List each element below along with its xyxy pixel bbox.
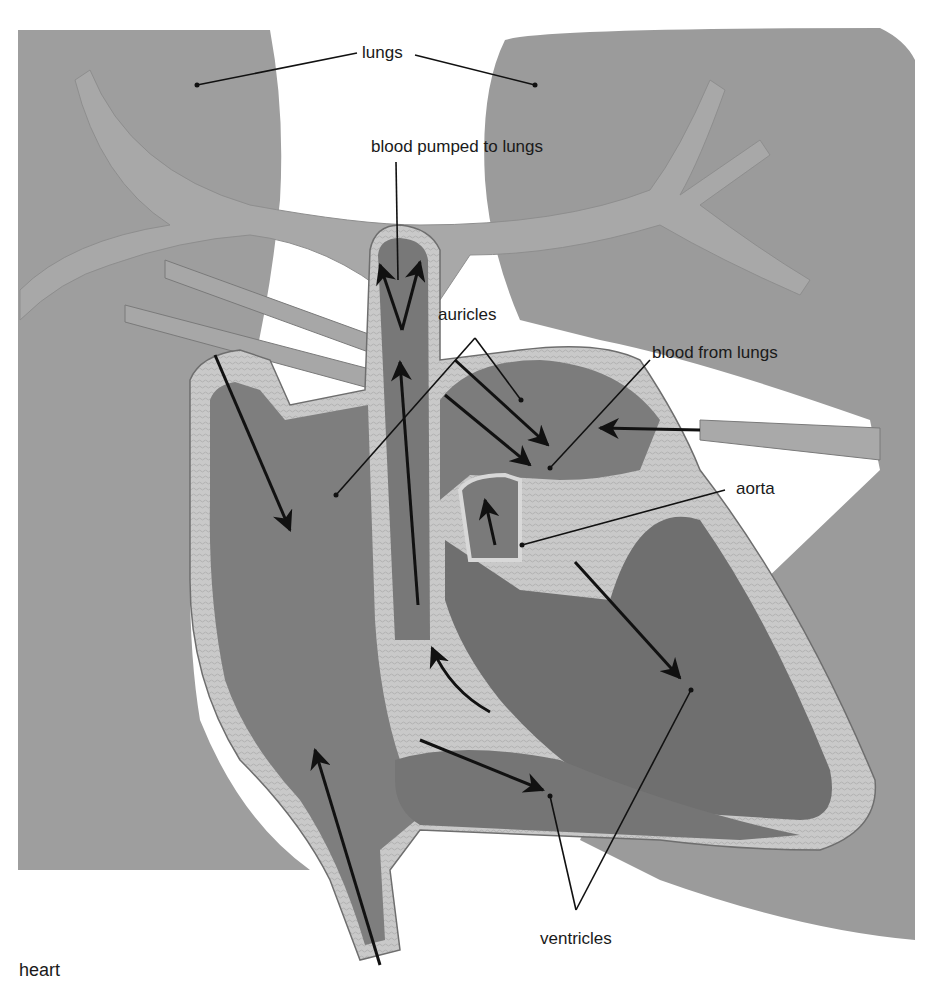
label-blood-pumped-to-lungs: blood pumped to lungs [371, 138, 543, 155]
pulmonary-vein-right [700, 420, 880, 460]
figure-caption: heart [19, 960, 60, 981]
label-auricles: auricles [438, 306, 497, 323]
label-lungs: lungs [362, 44, 403, 61]
label-ventricles: ventricles [540, 930, 612, 947]
label-aorta: aorta [736, 480, 775, 497]
label-blood-from-lungs: blood from lungs [652, 344, 778, 361]
